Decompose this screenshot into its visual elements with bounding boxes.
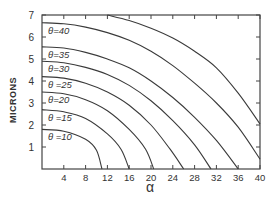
series-curve (42, 77, 184, 169)
y-tick-label: 7 (28, 10, 34, 21)
x-axis-label: α (146, 179, 154, 195)
plot-border (42, 15, 260, 169)
x-tick-label: 32 (211, 172, 222, 183)
x-tick-label: 8 (83, 172, 88, 183)
series-label: θ =10 (48, 131, 73, 142)
series-label: θ=20 (48, 94, 70, 105)
x-tick-label: 40 (255, 172, 266, 183)
x-tick-label: 16 (124, 172, 135, 183)
x-tick-label: 24 (168, 172, 179, 183)
y-tick-label: 1 (28, 142, 34, 153)
x-tick-label: 36 (233, 172, 244, 183)
series-label: θ =15 (48, 112, 73, 123)
y-tick-label: 4 (28, 76, 34, 87)
series-label: θ =25 (48, 79, 73, 90)
y-tick-label: 5 (28, 54, 34, 65)
y-tick-label: 2 (28, 120, 34, 131)
plot-frame (42, 15, 260, 169)
series-label: θ=35 (48, 49, 70, 60)
chart: 481216202428323640 1234567 θ =10θ =15θ=2… (0, 0, 280, 199)
series-labels: θ =10θ =15θ=20θ =25θ=30θ=35θ=40 (48, 25, 73, 143)
x-tick-label: 4 (61, 172, 66, 183)
y-axis-label: MICRONS (8, 77, 18, 123)
x-tick-label: 12 (102, 172, 113, 183)
curves (42, 15, 260, 169)
y-tick-label: 3 (28, 98, 34, 109)
series-curve (42, 23, 260, 159)
series-curve (42, 47, 238, 169)
x-axis-ticks: 481216202428323640 (61, 15, 265, 183)
x-tick-label: 28 (189, 172, 200, 183)
series-label: θ=40 (48, 25, 70, 36)
y-tick-label: 6 (28, 32, 34, 43)
series-label: θ=30 (48, 63, 70, 74)
